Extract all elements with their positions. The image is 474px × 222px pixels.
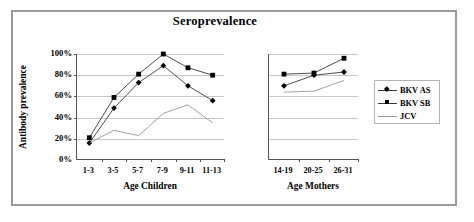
legend-label: BKV AS: [400, 84, 430, 97]
x-axis-title-mothers: Age Mothers: [287, 181, 339, 191]
data-point-marker: [282, 72, 287, 77]
x-axis-tick-labels: 1-33-55-77-99-1111-13: [76, 165, 224, 177]
y-axis-tick-labels: 0%20%40%60%80%100%: [38, 0, 72, 222]
legend-label: BKV SB: [400, 97, 430, 110]
data-point-marker: [312, 71, 317, 76]
y-tick-label: 20%: [38, 134, 72, 143]
series-layer: [269, 54, 359, 160]
data-point-marker: [161, 52, 166, 57]
data-point-marker: [342, 56, 347, 61]
plot-panel-children: [76, 54, 224, 160]
y-axis-title: Antibody prevalence: [16, 0, 30, 53]
data-point-marker: [87, 135, 92, 140]
series-layer: [77, 54, 225, 160]
series-line-bkv-as: [89, 66, 212, 143]
y-tick-label: 0%: [38, 155, 72, 164]
data-point-marker: [112, 95, 117, 100]
legend-marker-square-icon: [385, 100, 389, 104]
legend-item-bkv-as[interactable]: BKV AS: [378, 84, 440, 97]
x-tick-label: 1-3: [83, 165, 94, 177]
x-tick-label: 26-31: [333, 165, 352, 177]
y-axis-title-text: Antibody prevalence: [16, 53, 30, 161]
x-tick-label: 9-11: [180, 165, 195, 177]
y-tick-label: 60%: [38, 91, 72, 100]
x-tick-label: 11-13: [202, 165, 221, 177]
legend-label: JCV: [400, 110, 416, 123]
data-point-marker: [281, 83, 287, 89]
chart-screenshot: Seroprevalence Antibody prevalence 0%20%…: [0, 0, 474, 222]
legend-item-jcv[interactable]: JCV: [378, 110, 440, 123]
data-point-marker: [210, 73, 215, 78]
x-tick-label: 5-7: [132, 165, 143, 177]
data-point-marker: [341, 69, 347, 75]
data-point-marker: [136, 72, 141, 77]
x-axis-tick-labels: 14-1920-2526-31: [268, 165, 358, 177]
plot-panel-mothers: [268, 54, 358, 160]
x-tick-label: 14-19: [273, 165, 292, 177]
y-tick-label: 100%: [38, 49, 72, 58]
legend-line-swatch: [378, 116, 397, 117]
chart-title-text: Seroprevalence: [173, 14, 257, 28]
series-line-bkv-sb: [89, 54, 212, 138]
y-tick-label: 40%: [38, 113, 72, 122]
y-tick-label: 80%: [38, 70, 72, 79]
x-tick-label: 7-9: [157, 165, 168, 177]
legend-item-bkv-sb[interactable]: BKV SB: [378, 97, 440, 110]
data-point-marker: [210, 98, 216, 104]
series-line-jcv: [89, 105, 212, 143]
x-tick-label: 20-25: [303, 165, 322, 177]
x-tick-label: 3-5: [108, 165, 119, 177]
data-point-marker: [186, 65, 191, 70]
x-axis-title-children: Age Children: [123, 181, 177, 191]
chart-legend: BKV ASBKV SBJCV: [374, 80, 440, 124]
